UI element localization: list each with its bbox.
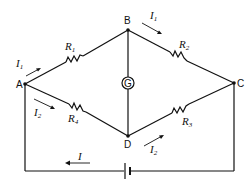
branch-d-c (128, 83, 234, 136)
circuit-svg: G A B C D R1 R2 R3 R4 (0, 0, 251, 187)
resistor-r3-icon (172, 104, 189, 113)
current-i1-label-bc: I1 (149, 9, 157, 23)
resistor-r3-label: R3 (181, 115, 193, 129)
resistor-r4-label: R4 (67, 112, 79, 126)
resistor-r4-icon (69, 103, 86, 112)
resistor-r1-label: R1 (64, 40, 75, 54)
current-arrow-i2-dc (144, 135, 164, 146)
node-c-dot (232, 81, 236, 85)
node-d-dot (126, 134, 130, 138)
resistor-r1-icon (66, 55, 83, 62)
node-b-label: B (124, 15, 131, 26)
galvanometer-icon: G (122, 77, 134, 89)
battery-icon (125, 163, 130, 179)
current-i1-label-ab: I1 (15, 57, 23, 71)
node-d-label: D (124, 139, 131, 150)
branch-a-d (25, 84, 128, 136)
resistor-r2-icon (170, 51, 187, 61)
current-i2-label-ad: I2 (33, 106, 42, 120)
current-i-label-bottom: I (77, 150, 83, 162)
current-arrow-i1-bc (142, 23, 162, 34)
current-i2-label-dc: I2 (149, 143, 158, 157)
node-b-dot (126, 28, 130, 32)
resistor-r2-label: R2 (178, 38, 190, 52)
node-c-label: C (237, 78, 244, 89)
node-a-dot (23, 82, 27, 86)
galvanometer-label: G (124, 78, 132, 89)
wheatstone-bridge-diagram: G A B C D R1 R2 R3 R4 (0, 0, 251, 187)
current-arrow-i1-ab (26, 68, 41, 76)
branch-a-b (25, 30, 128, 84)
node-a-label: A (16, 79, 23, 90)
